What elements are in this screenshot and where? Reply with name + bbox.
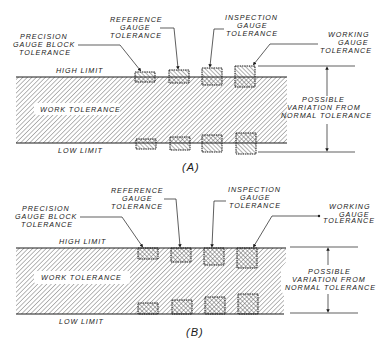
low-limit-label-a: LOW LIMIT bbox=[58, 146, 103, 155]
precision-box-low-b bbox=[138, 303, 158, 314]
diagram-a: WORK TOLERANCE HIGH LIMIT LOW LIMIT PREC… bbox=[13, 13, 372, 173]
inspection-box-high-b bbox=[204, 248, 224, 265]
inspection-box-high-a bbox=[202, 68, 222, 85]
high-limit-label-b: HIGH LIMIT bbox=[59, 237, 106, 246]
low-limit-label-b: LOW LIMIT bbox=[59, 317, 104, 326]
variation-label-b-3: NORMAL TOLERANCE bbox=[285, 283, 376, 292]
inspection-label-b-3: TOLERANCE bbox=[229, 201, 281, 210]
precision-box-high-b bbox=[138, 248, 158, 259]
reference-box-high-b bbox=[171, 248, 191, 262]
reference-leader-a bbox=[160, 28, 178, 68]
reference-label-b-3: TOLERANCE bbox=[111, 202, 163, 211]
caption-a: (A) bbox=[182, 161, 200, 173]
inspection-leader-b bbox=[212, 201, 226, 246]
reference-box-low-a bbox=[170, 137, 190, 150]
precision-box-low-a bbox=[136, 139, 156, 149]
working-box-low-b bbox=[238, 294, 258, 314]
work-tolerance-label-b: WORK TOLERANCE bbox=[41, 273, 122, 282]
working-leader-b bbox=[254, 216, 318, 246]
diagram-b: WORK TOLERANCE HIGH LIMIT LOW LIMIT PREC… bbox=[15, 185, 376, 338]
reference-box-low-b bbox=[172, 300, 192, 314]
working-leader-dot-b bbox=[318, 215, 320, 217]
high-limit-label-a: HIGH LIMIT bbox=[56, 66, 103, 75]
inspection-leader-a bbox=[210, 29, 224, 66]
working-box-high-a bbox=[235, 66, 255, 87]
caption-b: (B) bbox=[186, 326, 204, 338]
precision-label-b-3: TOLERANCE bbox=[21, 220, 73, 229]
working-box-high-b bbox=[237, 248, 257, 268]
precision-label-a-3: TOLERANCE bbox=[19, 48, 71, 57]
working-label-a-3: TOLERANCE bbox=[320, 46, 372, 55]
working-box-low-a bbox=[236, 133, 256, 154]
reference-leader-b bbox=[164, 199, 180, 246]
inspection-label-a-3: TOLERANCE bbox=[226, 29, 278, 38]
inspection-box-low-b bbox=[205, 297, 225, 314]
variation-label-a-3: NORMAL TOLERANCE bbox=[281, 111, 372, 120]
reference-box-high-a bbox=[169, 70, 189, 83]
reference-label-a-3: TOLERANCE bbox=[110, 31, 162, 40]
precision-box-high-a bbox=[135, 72, 155, 82]
working-leader-a bbox=[254, 44, 318, 64]
working-label-b-3: TOLERANCE bbox=[323, 216, 375, 225]
gauge-tolerance-diagram: WORK TOLERANCE HIGH LIMIT LOW LIMIT PREC… bbox=[0, 0, 387, 349]
inspection-box-low-a bbox=[202, 135, 222, 152]
work-tolerance-label-a: WORK TOLERANCE bbox=[40, 105, 121, 114]
